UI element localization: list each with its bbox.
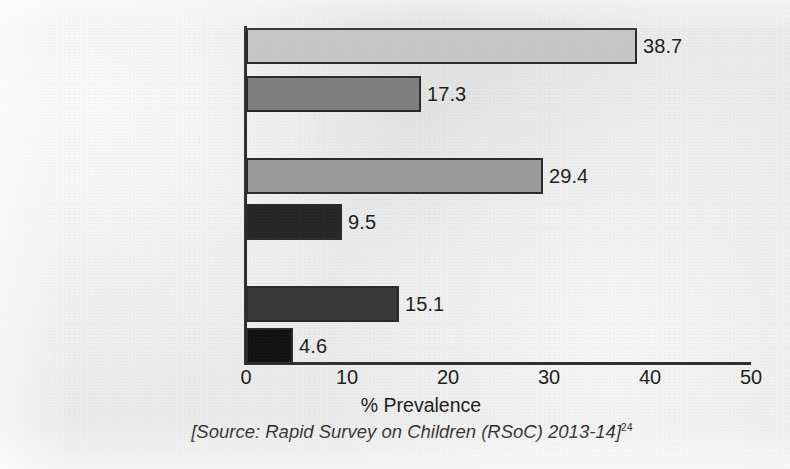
bar-value-stunted: 38.7 bbox=[643, 35, 682, 58]
bar-wasted bbox=[246, 286, 399, 322]
bar-stunted bbox=[246, 28, 637, 64]
x-tick-20: 20 bbox=[425, 366, 471, 389]
source-note: [Source: Rapid Survey on Children (RSoC)… bbox=[0, 421, 790, 443]
scanned-page: Stunted 38.7 Severely stunted 17.3 Under… bbox=[0, 0, 790, 469]
bar-value-underweight: 29.4 bbox=[549, 165, 588, 188]
bar-chart: Stunted 38.7 Severely stunted 17.3 Under… bbox=[0, 0, 790, 469]
x-axis-title: % Prevalence bbox=[0, 394, 790, 417]
x-tick-40: 40 bbox=[627, 366, 673, 389]
bar-value-severely-underweight: 9.5 bbox=[348, 211, 376, 234]
x-axis-line bbox=[244, 362, 751, 365]
x-tick-30: 30 bbox=[526, 366, 572, 389]
source-note-superscript: 24 bbox=[621, 422, 633, 433]
bar-severely-underweight bbox=[246, 204, 342, 240]
bar-value-severely-stunted: 17.3 bbox=[427, 83, 466, 106]
bar-value-wasted: 15.1 bbox=[405, 293, 444, 316]
bar-underweight bbox=[246, 158, 543, 194]
x-tick-50: 50 bbox=[728, 366, 774, 389]
source-note-text: [Source: Rapid Survey on Children (RSoC)… bbox=[191, 421, 621, 442]
x-tick-10: 10 bbox=[324, 366, 370, 389]
bar-severely-wasted bbox=[246, 328, 293, 364]
bar-value-severely-wasted: 4.6 bbox=[299, 335, 327, 358]
bar-severely-stunted bbox=[246, 76, 421, 112]
x-tick-0: 0 bbox=[223, 366, 269, 389]
